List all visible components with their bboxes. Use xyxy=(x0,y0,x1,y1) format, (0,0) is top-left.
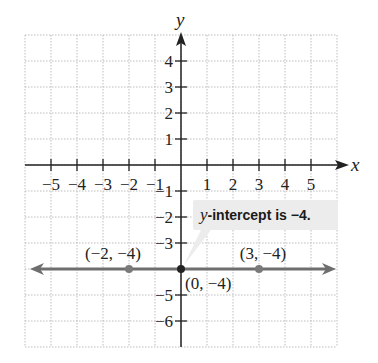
point-label: (0, −4) xyxy=(185,274,231,293)
y-tick-label: −6 xyxy=(155,312,173,331)
x-tick-label: 5 xyxy=(307,175,316,194)
point-label: (3, −4) xyxy=(240,244,286,263)
callout-text: y-intercept is −4. xyxy=(198,205,311,224)
y-tick-label: 1 xyxy=(165,130,174,149)
x-tick-label: 1 xyxy=(203,175,212,194)
y-tick-label: 2 xyxy=(165,104,174,123)
x-tick-label: −3 xyxy=(94,175,112,194)
x-tick-label: −4 xyxy=(68,175,87,194)
y-tick-label: 4 xyxy=(165,52,174,71)
y-tick-label: −2 xyxy=(155,208,173,227)
data-point xyxy=(125,265,133,273)
point-label: (−2, −4) xyxy=(85,244,141,263)
x-tick-label: 4 xyxy=(281,175,290,194)
data-point xyxy=(177,265,185,273)
callout-pointer xyxy=(184,230,211,265)
coordinate-plane: xy−5−4−3−2−112345−6−5−3−2−11234y-interce… xyxy=(0,0,378,363)
x-tick-label: −2 xyxy=(120,175,138,194)
x-tick-label: 2 xyxy=(229,175,238,194)
x-tick-label: 3 xyxy=(255,175,264,194)
y-tick-label: −1 xyxy=(155,182,173,201)
x-tick-label: −5 xyxy=(42,175,60,194)
data-point xyxy=(255,265,263,273)
x-axis-label: x xyxy=(350,154,360,175)
y-tick-label: −5 xyxy=(155,286,173,305)
y-tick-label: 3 xyxy=(165,78,174,97)
y-axis-label: y xyxy=(174,9,185,30)
y-tick-label: −3 xyxy=(155,234,173,253)
